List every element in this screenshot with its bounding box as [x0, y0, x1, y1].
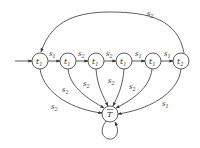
edge-label: s1 [135, 50, 142, 59]
edge-label: s1 [49, 50, 56, 59]
edge-label: s2 [51, 103, 58, 112]
state-labels: t1 t1 t1 t1 t1 t2 T [36, 57, 183, 119]
edge-label: s2 [147, 10, 154, 19]
edge-label: s2 [62, 86, 69, 95]
edge-label: s1 [164, 50, 171, 59]
edge-label: s2 [83, 80, 90, 89]
edge-label: s2 [78, 50, 85, 59]
edge-label: s2 [108, 77, 115, 86]
edge-label: s1 [162, 100, 169, 109]
sink-self-loop [102, 121, 117, 139]
sink-label: T [107, 110, 113, 119]
state-diagram: t1 t1 t1 t1 t1 t2 T s1 s2 s2 s1 s1 s2 s2… [0, 0, 200, 148]
edge-label: s2 [106, 50, 113, 59]
loop-back-arc [41, 12, 184, 53]
edge-label: s2 [129, 83, 136, 92]
